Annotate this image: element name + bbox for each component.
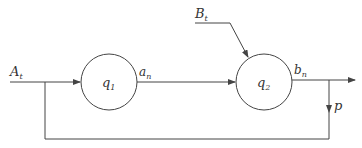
label-bn: bn bbox=[294, 63, 307, 79]
label-an: an bbox=[139, 65, 151, 81]
label-input-b: Bt bbox=[194, 6, 209, 23]
label-q1: q1 bbox=[102, 75, 115, 92]
label-input-a: At bbox=[9, 64, 23, 81]
label-p: p bbox=[334, 98, 343, 113]
flow-diagram: At q1 an Bt q2 bn p bbox=[0, 0, 362, 148]
label-q2: q2 bbox=[257, 75, 270, 92]
feedback-loop-line bbox=[45, 82, 329, 139]
input-b-line bbox=[195, 23, 248, 57]
